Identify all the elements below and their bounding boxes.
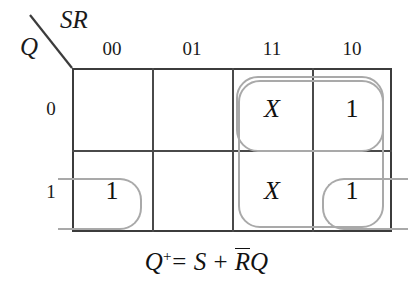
kmap-cell-q1-sr01 [152,150,232,232]
kmap-cell-q0-sr01 [152,68,232,150]
column-header-01: 01 [152,38,232,60]
column-header-11: 11 [232,38,312,60]
row-header-0: 0 [38,98,64,120]
column-header-10: 10 [312,38,392,60]
equation-term-r-bar: R [235,248,250,275]
kmap-cell-q1-sr11: X [232,150,312,232]
column-header-00: 00 [72,38,152,60]
kmap-cell-q0-sr11: X [232,68,312,150]
equation-term-s: S [194,248,207,275]
equation-term-q: Q [250,248,268,275]
row-header-1: 1 [38,181,64,203]
kmap-cell-q0-sr00 [72,68,152,150]
column-variable-label: SR [60,6,88,34]
equation-equals: = [171,248,187,275]
equation-plus: + [212,248,228,275]
kmap-cell-q1-sr10: 1 [312,150,392,232]
kmap-cell-q0-sr10: 1 [312,68,392,150]
kmap-grid: X 1 1 X 1 [72,68,392,232]
kmap-figure: SR Q 00 01 11 10 0 1 X 1 1 X 1 [0,0,413,294]
row-variable-label: Q [20,33,38,61]
equation-lhs: Q [145,248,163,275]
kmap-cell-q1-sr00: 1 [72,150,152,232]
kmap-equation: Q+= S + RQ [0,248,413,276]
